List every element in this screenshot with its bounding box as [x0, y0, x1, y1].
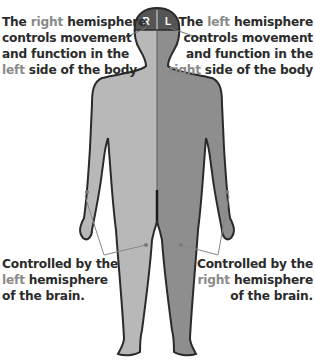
highlight-right: right [31, 15, 63, 29]
highlight-left: left [2, 63, 25, 77]
right-hand-dot [225, 190, 229, 194]
callout-top-right: The left hemisphere controls movement an… [168, 14, 313, 78]
callout-bottom-right: Controlled by the right hemisphere of th… [197, 256, 313, 304]
callout-top-left: The right hemisphere controls movement a… [2, 14, 146, 78]
highlight-left: left [207, 15, 230, 29]
highlight-right: right [198, 273, 230, 287]
highlight-left: left [2, 273, 25, 287]
left-hand-dot [85, 190, 89, 194]
callout-bottom-left: Controlled by the left hemisphere of the… [2, 256, 118, 304]
highlight-right: right [168, 63, 200, 77]
